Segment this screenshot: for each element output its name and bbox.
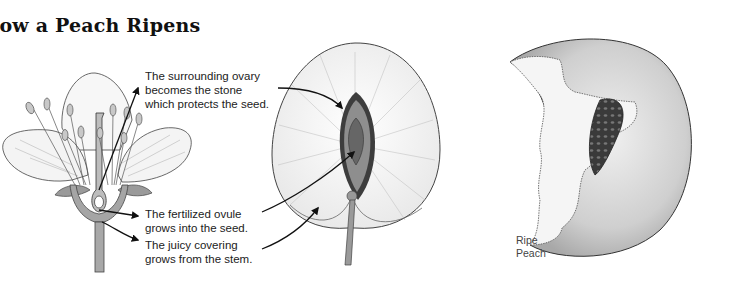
covering-label: The juicy covering grows from the stem.: [145, 238, 252, 266]
ovary-label: The surrounding ovary becomes the stone …: [145, 69, 269, 111]
ovule-label-line: The fertilized ovule: [145, 207, 248, 221]
ovary-label-line: becomes the stone: [145, 83, 269, 97]
covering-label-line: The juicy covering: [145, 238, 252, 252]
ripe-label-line: Peach: [516, 247, 546, 260]
covering-label-line: grows from the stem.: [145, 252, 252, 266]
ripe-label-line: Ripe: [516, 234, 546, 247]
diagram-illustration: [0, 0, 752, 282]
young-peach-cross-section: [272, 43, 440, 265]
ovule-label: The fertilized ovule grows into the seed…: [145, 207, 248, 235]
ovule-label-line: grows into the seed.: [145, 221, 248, 235]
ripe-peach-illustration: [510, 39, 691, 256]
ovary-label-line: which protects the seed.: [145, 97, 269, 111]
ripe-peach-label: Ripe Peach: [516, 234, 546, 260]
ovary-label-line: The surrounding ovary: [145, 69, 269, 83]
